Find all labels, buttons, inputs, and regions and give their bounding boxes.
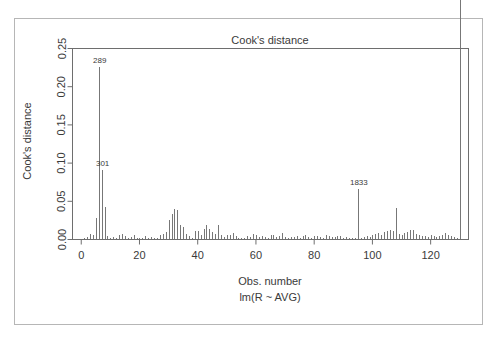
- y-tick-label: 0.25: [56, 38, 68, 59]
- x-axis-subtitle: lm(R ~ AVG): [239, 291, 300, 303]
- plot-frame: [73, 49, 469, 240]
- x-tick-label: 120: [421, 249, 439, 261]
- x-tick-label: 100: [363, 249, 381, 261]
- chart-title: Cook's distance: [231, 34, 308, 46]
- y-axis-title: Cook's distance: [21, 102, 33, 179]
- y-tick-label: 0.10: [56, 152, 68, 173]
- point-label: 1833: [350, 178, 368, 187]
- point-label: 301: [96, 159, 110, 168]
- x-tick-label: 80: [308, 249, 320, 261]
- x-tick-label: 40: [192, 249, 204, 261]
- x-tick-label: 60: [250, 249, 262, 261]
- cooks-distance-figure: 0204060801001200.000.050.100.150.200.252…: [0, 0, 496, 339]
- y-tick-label: 0.05: [56, 191, 68, 212]
- plot-canvas: 0204060801001200.000.050.100.150.200.252…: [0, 0, 496, 339]
- y-tick-label: 0.20: [56, 76, 68, 97]
- axes: [68, 49, 469, 245]
- x-tick-label: 0: [78, 249, 84, 261]
- point-label: 289: [93, 56, 107, 65]
- y-tick-label: 0.15: [55, 114, 67, 135]
- annotation-labels: 0204060801001200.000.050.100.150.200.252…: [55, 38, 439, 261]
- x-axis-title: Obs. number: [238, 275, 302, 287]
- x-tick-label: 20: [133, 249, 145, 261]
- y-tick-label: 0.00: [56, 229, 68, 250]
